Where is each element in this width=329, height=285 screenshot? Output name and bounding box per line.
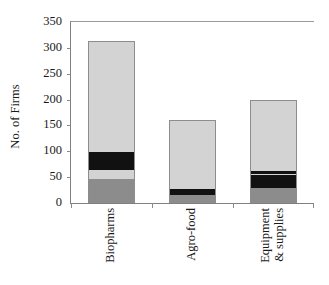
bar-1-segment-4 xyxy=(89,42,134,152)
y-axis-tick-mark xyxy=(67,125,71,126)
bar-3-segment-2 xyxy=(251,175,296,188)
bar-1-segment-2 xyxy=(89,170,134,179)
x-axis-label-line: Biopharms xyxy=(104,208,117,263)
y-axis-tick-mark xyxy=(67,100,71,101)
bar-1-segment-1 xyxy=(89,179,134,202)
bar-3 xyxy=(250,100,297,203)
x-axis-category-labels: BiopharmsAgro-foodEquipment& supplies xyxy=(70,208,314,285)
x-axis-label-line: Equipment xyxy=(259,208,272,263)
bar-2-segment-4 xyxy=(170,121,215,179)
y-axis-title: No. of Firms xyxy=(4,56,26,176)
bar-1-segment-3 xyxy=(89,152,134,170)
y-axis-tick-label: 250 xyxy=(43,66,62,79)
bar-2-segment-1 xyxy=(170,195,215,202)
y-axis-tick-mark xyxy=(67,48,71,49)
y-axis-tick-labels: 050100150200250300350 xyxy=(26,0,66,285)
bar-1 xyxy=(88,41,135,203)
y-axis-tick-mark xyxy=(67,177,71,178)
x-axis-label-line: & supplies xyxy=(273,208,286,262)
bar-2 xyxy=(169,120,216,203)
y-axis-tick-label: 300 xyxy=(43,41,62,54)
y-axis-tick-mark xyxy=(67,151,71,152)
y-axis-tick-label: 200 xyxy=(43,92,62,105)
bar-3-segment-1 xyxy=(251,188,296,202)
y-axis-tick-mark xyxy=(67,74,71,75)
y-axis-tick-label: 100 xyxy=(43,144,62,157)
y-axis-tick-label: 50 xyxy=(50,170,63,183)
y-axis-tick-label: 150 xyxy=(43,118,62,131)
x-axis-label-3: Equipment& supplies xyxy=(243,208,303,285)
bar-3-segment-5 xyxy=(251,101,296,172)
bar-chart: No. of Firms 050100150200250300350 Bioph… xyxy=(0,0,329,285)
x-axis-label-1: Biopharms xyxy=(81,208,141,285)
x-axis-label-2: Agro-food xyxy=(162,208,222,285)
y-axis-title-text: No. of Firms xyxy=(8,84,23,148)
y-axis-tick-label: 350 xyxy=(43,15,62,28)
y-axis-tick-label: 0 xyxy=(56,196,62,209)
x-axis-label-line: Agro-food xyxy=(185,208,198,261)
bar-2-segment-3 xyxy=(170,179,215,190)
plot-area xyxy=(70,21,314,204)
